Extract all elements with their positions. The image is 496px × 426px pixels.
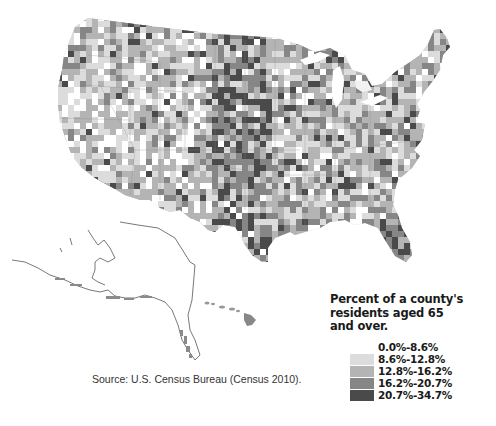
legend-label: 16.2%-20.7% — [378, 377, 452, 389]
legend-swatch — [350, 342, 374, 353]
hawaii — [205, 302, 257, 327]
alaska-panhandle — [55, 278, 192, 358]
legend-swatch — [350, 378, 374, 389]
legend-swatch — [350, 366, 374, 377]
legend-label: 0.0%-8.6% — [378, 341, 438, 353]
legend-swatch — [350, 390, 374, 401]
source-caption: Source: U.S. Census Bureau (Census 2010)… — [92, 373, 302, 385]
legend-swatch — [350, 354, 374, 365]
legend-title: Percent of a county's residents aged 65 … — [330, 293, 496, 334]
legend-item: 8.6%-12.8% — [350, 353, 452, 365]
legend-item: 16.2%-20.7% — [350, 377, 452, 389]
contiguous-us — [50, 15, 464, 273]
legend-label: 12.8%-16.2% — [378, 365, 452, 377]
legend-items: 0.0%-8.6% 8.6%-12.8% 12.8%-16.2% 16.2%-2… — [350, 341, 452, 401]
legend: Percent of a county's residents aged 65 … — [330, 293, 496, 334]
legend-label: 8.6%-12.8% — [378, 353, 445, 365]
legend-item: 12.8%-16.2% — [350, 365, 452, 377]
legend-label: 20.7%-34.7% — [378, 389, 452, 401]
legend-item: 0.0%-8.6% — [350, 341, 452, 353]
legend-item: 20.7%-34.7% — [350, 389, 452, 401]
alaska — [12, 222, 200, 360]
